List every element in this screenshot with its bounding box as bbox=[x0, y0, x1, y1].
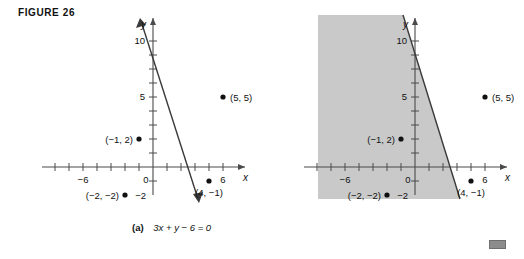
panel-b: −6 0 6 10 5 −2 x y (5, 5) (−1, 2) (−2, −… bbox=[262, 0, 524, 259]
point-label-5-5: (5, 5) bbox=[230, 92, 252, 103]
panel-a: −6 0 6 10 5 −2 x y (5, 5) (−1, 2) (−2, −… bbox=[0, 0, 262, 259]
x-axis-a bbox=[42, 163, 245, 171]
x-tick-label-6: 6 bbox=[482, 174, 487, 185]
x-tick-label-minus6: −6 bbox=[340, 174, 351, 185]
y-tick-label-minus2: −2 bbox=[135, 190, 146, 201]
point-label-5-5: (5, 5) bbox=[492, 92, 514, 103]
point-label-neg2-neg2: (−2, −2) bbox=[348, 190, 381, 201]
y-tick-label-10: 10 bbox=[134, 35, 145, 46]
axis-tick-labels-a: −6 0 6 10 5 −2 x y bbox=[78, 19, 249, 201]
y-tick-label-minus2: −2 bbox=[397, 190, 408, 201]
coordinate-plane-a: −6 0 6 10 5 −2 x y (5, 5) (−1, 2) (−2, −… bbox=[0, 0, 262, 215]
x-tick-label-0: 0 bbox=[143, 174, 148, 185]
y-axis-label-a: y bbox=[140, 19, 147, 30]
point-label-neg2-neg2: (−2, −2) bbox=[86, 190, 119, 201]
plot-b: −6 0 6 10 5 −2 x y (5, 5) (−1, 2) (−2, −… bbox=[262, 0, 524, 215]
point-label-neg1-2: (−1, 2) bbox=[367, 134, 395, 145]
x-tick-label-minus6: −6 bbox=[78, 174, 89, 185]
point-label-4-neg1: (4, −1) bbox=[195, 187, 223, 198]
plot-a: −6 0 6 10 5 −2 x y (5, 5) (−1, 2) (−2, −… bbox=[0, 0, 262, 215]
y-tick-label-10: 10 bbox=[396, 35, 407, 46]
data-points-a bbox=[122, 94, 225, 197]
point-label-neg1-2: (−1, 2) bbox=[105, 134, 133, 145]
x-tick-label-6: 6 bbox=[220, 174, 225, 185]
x-tick-label-0: 0 bbox=[405, 174, 410, 185]
shaded-region-b bbox=[318, 15, 460, 199]
coordinate-plane-b: −6 0 6 10 5 −2 x y (5, 5) (−1, 2) (−2, −… bbox=[262, 0, 524, 215]
point-label-4-neg1: (4, −1) bbox=[457, 187, 485, 198]
caption-a-equation: 3x + y − 6 = 0 bbox=[153, 222, 211, 233]
y-axis-a bbox=[149, 18, 157, 195]
y-tick-label-5: 5 bbox=[140, 91, 145, 102]
caption-a: (a) 3x + y − 6 = 0 bbox=[132, 222, 211, 234]
x-axis-label-a: x bbox=[242, 172, 249, 183]
color-swatch bbox=[489, 240, 506, 249]
caption-a-tag: (a) bbox=[132, 222, 144, 233]
x-axis-label-b: x bbox=[504, 172, 511, 183]
y-axis-label-b: y bbox=[402, 19, 409, 30]
y-tick-label-5: 5 bbox=[402, 91, 407, 102]
